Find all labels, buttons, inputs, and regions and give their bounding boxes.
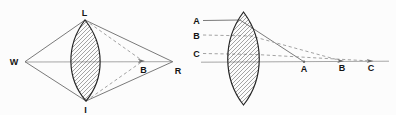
label-inner-axis-point: B [140, 65, 147, 75]
dashed-ray-b-path [203, 35, 342, 61]
lens-ray-diagram: L W I B R A B C A B C [0, 0, 396, 115]
label-left-vertex: W [10, 57, 19, 67]
label-ray-a: A [193, 16, 200, 26]
right-panel-diagram: A B C A B C [193, 12, 389, 105]
label-right-vertex: R [175, 66, 182, 76]
right-converging-lens [228, 12, 260, 105]
label-axis-point-c: C [368, 63, 375, 73]
arrowhead-at-b [138, 59, 145, 63]
label-axis-point-b: B [339, 63, 346, 73]
label-ray-c: C [193, 49, 200, 59]
label-axis-point-a: A [301, 64, 308, 74]
left-panel-diagram: L W I B R [10, 8, 182, 115]
optics-figure: L W I B R A B C A B C [0, 0, 396, 115]
label-lens-top: L [82, 8, 88, 18]
left-converging-lens [71, 20, 100, 101]
label-ray-b: B [193, 31, 200, 41]
label-lens-bottom: I [84, 105, 87, 115]
